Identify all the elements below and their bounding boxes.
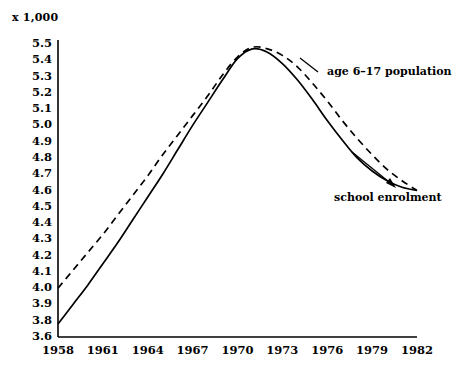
leader-line-population bbox=[300, 58, 318, 72]
axis-lines bbox=[58, 40, 417, 337]
series-line-school-enrolment bbox=[58, 49, 417, 324]
series-annotation-enrolment: school enrolment bbox=[334, 192, 442, 203]
series-annotation-population: age 6–17 population bbox=[327, 66, 452, 77]
leader-arrow-enrolment bbox=[386, 178, 396, 188]
series-paths bbox=[58, 47, 417, 324]
